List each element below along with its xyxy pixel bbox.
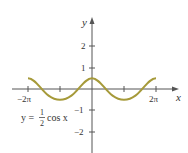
x-tick-label-neg2pi: −2π [17,94,32,104]
equation-numerator: 1 [40,108,44,117]
y-axis-arrow-icon [90,17,95,24]
equation-lhs: y = [21,112,35,123]
y-tick-label-1: 1 [81,63,86,73]
equation-annotation: y = 1 2 cos x [21,108,68,128]
x-tick-label-2pi: 2π [149,94,159,104]
y-axis-label: y [81,16,87,28]
chart-svg: y x −2π 2π 2 1 −1 −2 y = 1 2 cos x [0,0,188,153]
y-tick-label-neg2: −2 [74,127,84,137]
equation-denominator: 2 [40,119,44,128]
y-tick-label-2: 2 [81,41,86,51]
x-axis-label: x [175,91,181,103]
equation-rhs: cos x [47,112,68,123]
y-tick-label-neg1: −1 [74,105,84,115]
